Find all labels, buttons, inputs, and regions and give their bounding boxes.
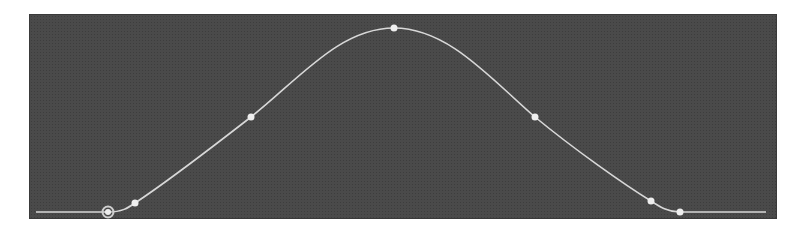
animation-curve[interactable] <box>0 0 795 232</box>
start-keyframe-point[interactable] <box>105 209 111 215</box>
curve-path[interactable] <box>36 28 766 212</box>
peak-keyframe-point[interactable] <box>391 25 398 32</box>
out-handle-point[interactable] <box>648 198 655 205</box>
fall-midpoint-point[interactable] <box>532 114 539 121</box>
rise-midpoint-point[interactable] <box>248 114 255 121</box>
in-handle-point[interactable] <box>132 200 139 207</box>
end-keyframe-point[interactable] <box>677 209 684 216</box>
